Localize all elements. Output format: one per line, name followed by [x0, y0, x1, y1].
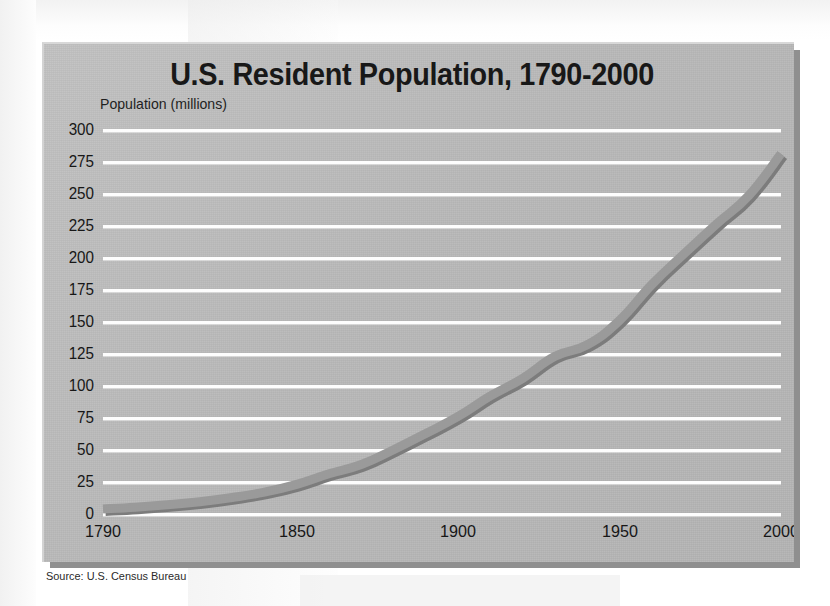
y-axis-tick-label: 300 — [47, 121, 95, 139]
gridline — [103, 289, 781, 292]
gridline — [103, 385, 781, 388]
gridline — [103, 321, 781, 324]
y-axis-tick-label: 175 — [47, 281, 95, 299]
y-axis-caption: Population (millions) — [100, 95, 227, 112]
gridline — [103, 225, 781, 228]
y-axis-tick-label: 75 — [47, 409, 95, 427]
gridline — [103, 353, 781, 356]
x-axis-tick-label: 1900 — [440, 522, 476, 542]
gridline — [103, 513, 781, 516]
plot-area: 0255075100125150175200225250275300179018… — [44, 44, 794, 562]
y-axis-tick-label: 150 — [47, 313, 95, 331]
x-axis-tick-label: 2000 — [763, 522, 794, 542]
gridline — [103, 257, 781, 260]
chart-panel: U.S. Resident Population, 1790-2000 Popu… — [42, 42, 794, 562]
x-axis-tick-label: 1850 — [279, 522, 315, 542]
gridline — [103, 481, 781, 484]
gridline — [103, 161, 781, 164]
scan-tint-left — [0, 0, 36, 606]
y-axis-tick-label: 225 — [47, 217, 95, 235]
y-axis-tick-label: 200 — [47, 249, 95, 267]
source-note: Source: U.S. Census Bureau — [46, 570, 186, 582]
y-axis-tick-label: 0 — [47, 505, 95, 523]
y-axis-tick-label: 100 — [47, 377, 95, 395]
scan-tint-bottom — [300, 575, 620, 606]
x-axis-tick-label: 1950 — [602, 522, 638, 542]
y-axis-tick-label: 125 — [47, 345, 95, 363]
gridline — [103, 449, 781, 452]
gridline — [103, 417, 781, 420]
y-axis-tick-label: 25 — [47, 473, 95, 491]
gridline — [103, 193, 781, 196]
y-axis-tick-label: 250 — [47, 185, 95, 203]
gridline — [103, 129, 781, 132]
chart-title: U.S. Resident Population, 1790-2000 — [70, 57, 754, 93]
x-axis-tick-label: 1790 — [85, 522, 121, 542]
y-axis-tick-label: 275 — [47, 153, 95, 171]
y-axis-tick-label: 50 — [47, 441, 95, 459]
